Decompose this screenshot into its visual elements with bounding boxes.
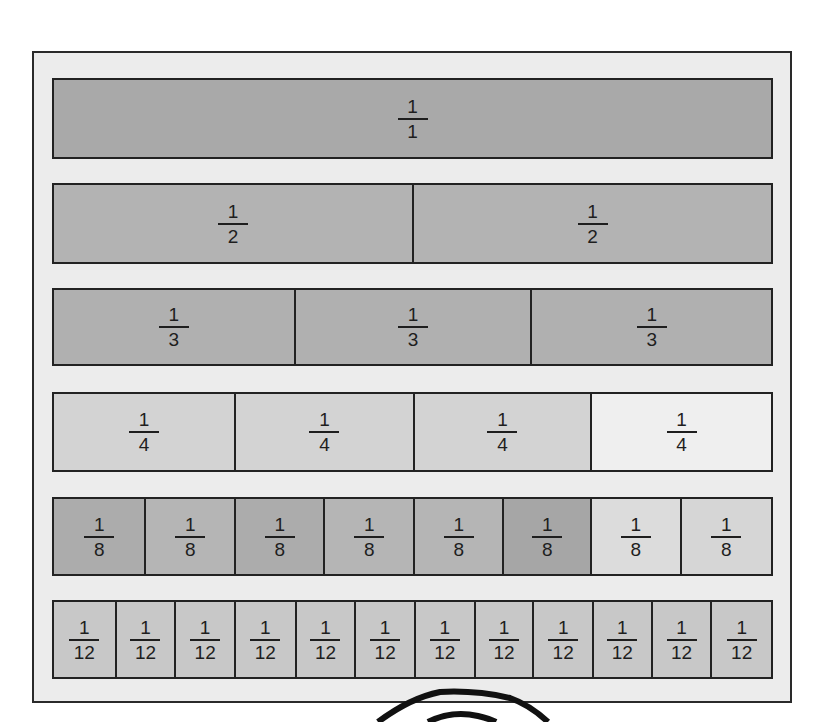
decorative-curve-icon [0,0,820,722]
